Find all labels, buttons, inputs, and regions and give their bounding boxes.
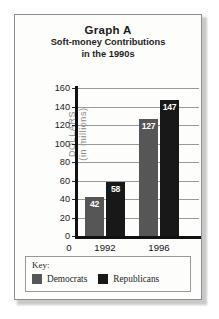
x-axis-tick-label: 1992 xyxy=(94,242,115,253)
chart-title: Graph A xyxy=(15,23,201,37)
plot-area: 0204060801001201401604258127147 0 199219… xyxy=(77,88,199,236)
legend-label: Republicans xyxy=(113,274,159,284)
gridline xyxy=(77,144,199,145)
y-axis-tick-label: 80 xyxy=(60,157,70,167)
chart-card: Graph A Soft-money Contributions in the … xyxy=(14,14,202,300)
bar-republicans-1996: 147 xyxy=(160,100,179,236)
y-axis-tick-label: 20 xyxy=(60,213,70,223)
y-axis-line xyxy=(75,86,78,238)
bar-value-label: 127 xyxy=(142,121,156,131)
legend-item-republicans: Republicans xyxy=(98,274,159,284)
chart-title-block: Graph A Soft-money Contributions in the … xyxy=(15,23,201,60)
gridline xyxy=(77,88,199,89)
y-axis-tick-label: 160 xyxy=(55,83,70,93)
gridline xyxy=(77,107,199,108)
chart-subtitle-line-1: Soft-money Contributions xyxy=(15,37,201,49)
chart-subtitle-line-2: in the 1990s xyxy=(15,49,201,61)
x-origin-label: 0 xyxy=(66,242,71,253)
bar-value-label: 147 xyxy=(163,102,177,112)
x-axis-tick-label: 1996 xyxy=(148,242,169,253)
legend-box: Key: DemocratsRepublicans xyxy=(25,256,191,292)
legend-items: DemocratsRepublicans xyxy=(32,274,186,284)
gridline xyxy=(77,162,199,163)
legend-label: Democrats xyxy=(47,274,87,284)
bar-democrats-1996: 127 xyxy=(139,119,158,236)
legend-swatch xyxy=(98,274,108,284)
y-axis-tick-label: 40 xyxy=(60,194,70,204)
bar-democrats-1992: 42 xyxy=(85,197,104,236)
legend-swatch xyxy=(32,274,42,284)
bar-value-label: 58 xyxy=(111,184,120,194)
y-axis-tick-label: 120 xyxy=(55,120,70,130)
plot-inner: 0204060801001201401604258127147 xyxy=(77,88,199,236)
gridline xyxy=(77,125,199,126)
y-axis-tick-label: 140 xyxy=(55,102,70,112)
bar-republicans-1992: 58 xyxy=(106,182,125,236)
chart-page: Graph A Soft-money Contributions in the … xyxy=(0,0,219,319)
y-axis-tick-label: 60 xyxy=(60,176,70,186)
x-axis-line xyxy=(75,236,201,239)
y-axis-tick-label: 0 xyxy=(65,231,70,241)
bar-value-label: 42 xyxy=(90,199,99,209)
gridline xyxy=(77,181,199,182)
y-axis-tick-label: 100 xyxy=(55,139,70,149)
legend-title: Key: xyxy=(32,260,50,270)
legend-item-democrats: Democrats xyxy=(32,274,87,284)
